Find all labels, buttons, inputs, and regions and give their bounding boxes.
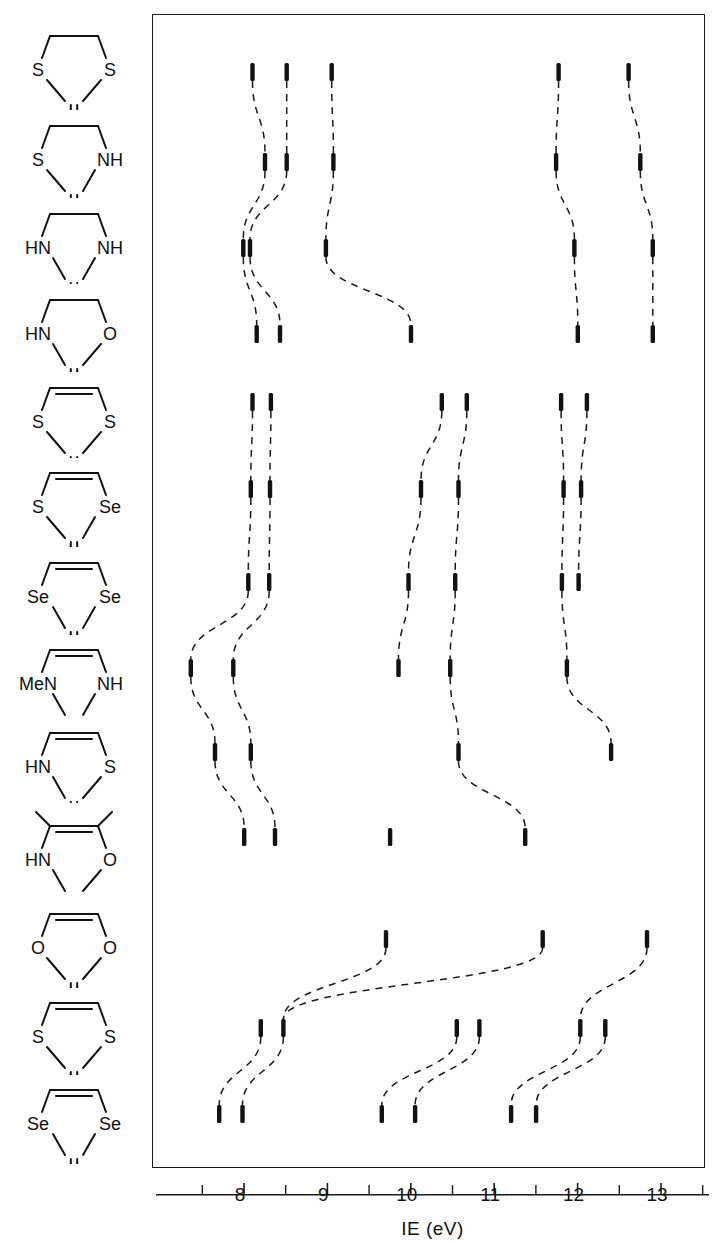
connector-line — [269, 498, 270, 573]
connector-line — [243, 1037, 284, 1105]
ionization-band-marker — [453, 573, 457, 591]
connector-line — [459, 761, 526, 828]
ring-atom-label-left: HN — [25, 757, 51, 777]
connector-line — [283, 948, 542, 1019]
molecular-structure-7: SeSeS — [0, 545, 148, 635]
molecular-structure-1: SSS — [0, 18, 148, 110]
ionization-band-marker — [231, 659, 235, 677]
ring-bond-upper-left — [42, 214, 50, 236]
ionization-band-marker — [554, 153, 558, 171]
ring-bond-upper-right — [98, 388, 106, 410]
connector-line — [536, 1037, 605, 1105]
connector-line — [640, 171, 653, 239]
figure-page: SSSSNHSHNNHSHNOSSSSSSeSSeSeSMeNNHSHNSSHN… — [0, 0, 721, 1243]
ionization-band-marker — [249, 480, 253, 498]
axis-tick-label: 8 — [235, 1184, 246, 1206]
ionization-band-marker — [384, 930, 388, 948]
molecular-structure-11: OOO — [0, 896, 148, 988]
ring-bond-lower-left — [47, 80, 65, 101]
ionization-band-marker — [406, 573, 410, 591]
connector-line — [556, 81, 559, 153]
connector-line — [251, 411, 253, 480]
axis-tick-label: 12 — [563, 1184, 584, 1206]
connector-line — [459, 411, 467, 480]
ionization-band-marker — [281, 1019, 285, 1037]
ring-bond-upper-right — [98, 473, 106, 495]
ring-atom-label-left: Se — [27, 1114, 49, 1134]
ring-bond-lower-left — [53, 1134, 65, 1155]
ionization-band-marker — [534, 1105, 538, 1123]
ionization-band-marker — [388, 828, 392, 846]
ring-bond-lower-right — [83, 958, 101, 979]
axis-tick-label: 11 — [480, 1184, 500, 1206]
ring-bond-upper-right — [98, 914, 106, 936]
ionization-band-marker — [651, 239, 655, 257]
ionization-band-marker — [189, 659, 193, 677]
ionization-band-marker — [419, 480, 423, 498]
ring-atom-label-left: S — [32, 1027, 44, 1047]
ionization-band-marker — [448, 659, 452, 677]
ionization-band-marker — [267, 573, 271, 591]
ring-bond-lower-left — [53, 258, 65, 279]
ionization-band-marker — [572, 239, 576, 257]
axis-tick-label: 10 — [396, 1184, 417, 1206]
connector-line — [243, 171, 265, 239]
ring-bond-lower-right — [83, 1047, 101, 1068]
ionization-band-marker — [626, 63, 630, 81]
axis-tick-label: 13 — [646, 1184, 667, 1206]
ionization-band-marker — [278, 325, 282, 343]
ionization-band-marker — [263, 153, 267, 171]
ring-bond-upper-right — [98, 214, 106, 236]
structure-column: SSSSNHSHNNHSHNOSSSSSSeSSeSeSMeNNHSHNSSHN… — [0, 0, 148, 1243]
connector-line — [332, 81, 334, 153]
ring-atom-label-right: S — [104, 757, 116, 777]
plot-area — [152, 14, 705, 1168]
ionization-band-marker — [413, 1105, 417, 1123]
connector-line — [326, 257, 411, 325]
connector-line — [450, 677, 458, 743]
ring-atom-label-left: HN — [25, 324, 51, 344]
connector-line — [562, 498, 564, 573]
ring-bond-upper-right — [98, 1003, 106, 1025]
ring-atom-label-right: S — [104, 1027, 116, 1047]
ring-bond-upper-left — [42, 650, 50, 672]
connector-line — [283, 948, 386, 1019]
ring-bond-upper-right — [98, 1090, 106, 1112]
ring-bond-lower-left — [53, 694, 65, 715]
ring-atom-label-right: S — [104, 412, 116, 432]
connector-line — [233, 677, 251, 743]
axis-title: IE (eV) — [152, 1218, 713, 1240]
ionization-band-marker — [465, 393, 469, 411]
ionization-band-marker — [578, 1019, 582, 1037]
connector-line — [243, 257, 256, 325]
x-axis: IE (eV) 8910111213 — [152, 1168, 713, 1243]
connector-line — [579, 498, 582, 573]
ring-bond-lower-right — [83, 344, 101, 365]
ionization-band-marker — [285, 63, 289, 81]
ionization-band-marker — [609, 743, 613, 761]
ring-bond-upper-right — [98, 126, 106, 148]
ring-bond-lower-left — [47, 432, 65, 453]
connector-line — [455, 498, 458, 573]
ionization-band-marker — [324, 239, 328, 257]
ring-atom-label-left: MeN — [19, 674, 57, 694]
ionization-band-marker — [576, 573, 580, 591]
ring-bond-upper-left — [42, 473, 50, 495]
ionization-band-marker — [217, 1105, 221, 1123]
ring-bond-upper-right — [98, 563, 106, 585]
ring-atom-label-left: O — [31, 938, 45, 958]
molecular-structure-6: SSeS — [0, 455, 148, 547]
ionization-band-marker — [565, 659, 569, 677]
ring-bond-upper-left — [42, 388, 50, 410]
ionization-band-marker — [638, 153, 642, 171]
connector-line — [399, 591, 409, 659]
connector-line — [250, 257, 280, 325]
ionization-band-marker — [331, 153, 335, 171]
ring-bond-lower-left — [53, 607, 65, 628]
ring-bond-upper-right — [98, 36, 106, 58]
connector-line — [251, 761, 275, 828]
ionization-band-marker — [561, 480, 565, 498]
connector-line — [326, 171, 334, 239]
ring-bond-lower-left — [53, 777, 65, 798]
ionization-band-marker — [250, 63, 254, 81]
